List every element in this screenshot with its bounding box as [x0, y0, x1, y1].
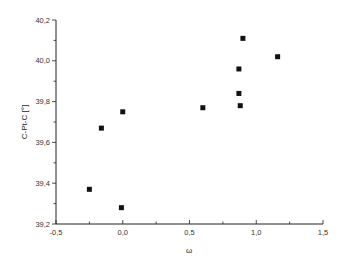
x-tick-label: 1,5 — [318, 228, 328, 237]
data-point-marker — [99, 126, 104, 131]
data-point-marker — [200, 105, 205, 110]
data-point-marker — [119, 205, 124, 210]
data-point-marker — [240, 36, 245, 41]
y-tick-label: 39,4 — [35, 179, 50, 188]
data-point-marker — [120, 109, 125, 114]
y-ticks — [52, 20, 56, 224]
y-tick-label: 40,2 — [35, 16, 50, 25]
y-tick-label: 39,8 — [35, 97, 50, 106]
x-tick-label: 1,0 — [251, 228, 261, 237]
x-tick-label: -0,5 — [50, 228, 63, 237]
data-point-marker — [275, 54, 280, 59]
x-tick-labels: -0,50,00,51,01,5 — [50, 228, 329, 237]
data-points — [87, 36, 280, 210]
x-tick-label: 0,0 — [118, 228, 128, 237]
data-point-marker — [236, 66, 241, 71]
x-tick-label: 0,5 — [184, 228, 194, 237]
scatter-chart: 39,239,439,639,840,040,2 C-Pt-C [°] -0,5… — [0, 0, 348, 267]
data-point-marker — [238, 103, 243, 108]
data-point-marker — [236, 91, 241, 96]
y-tick-labels: 39,239,439,639,840,040,2 — [35, 16, 50, 229]
y-axis-title: C-Pt-C [°] — [20, 105, 29, 139]
x-ticks — [56, 220, 323, 224]
y-tick-label: 40,0 — [35, 56, 50, 65]
x-axis-title: ω — [186, 246, 192, 255]
data-point-marker — [87, 187, 92, 192]
y-tick-label: 39,6 — [35, 138, 50, 147]
y-tick-label: 39,2 — [35, 220, 50, 229]
y-axis: 39,239,439,639,840,040,2 C-Pt-C [°] — [20, 16, 56, 229]
x-axis: -0,50,00,51,01,5 ω — [50, 220, 329, 255]
